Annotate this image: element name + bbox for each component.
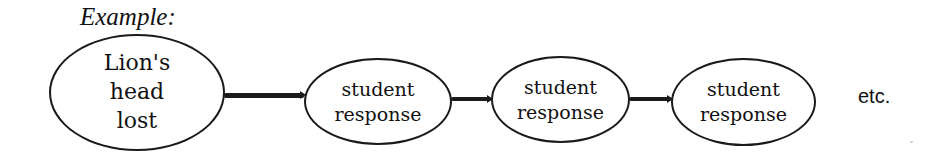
connector-arrow-3 — [629, 97, 671, 101]
start-node-line: head — [110, 77, 164, 106]
response-node-line: student — [342, 77, 415, 102]
start-node-line: Lion's — [104, 48, 170, 77]
student-response-node-2: student response — [491, 56, 630, 143]
response-node-line: student — [707, 77, 780, 102]
connector-arrow-1 — [224, 93, 304, 98]
response-node-line: response — [335, 102, 422, 127]
student-response-node-3: student response — [671, 58, 816, 146]
scan-speck — [910, 141, 913, 143]
example-caption: Example: — [80, 2, 176, 32]
student-response-node-1: student response — [304, 58, 452, 145]
continuation-label: etc. — [858, 84, 890, 108]
start-node-lions-head-lost: Lion's head lost — [49, 34, 225, 151]
response-node-line: response — [700, 102, 787, 127]
start-node-line: lost — [117, 106, 157, 135]
connector-arrow-2 — [451, 97, 491, 101]
response-node-line: student — [524, 75, 597, 100]
flow-diagram: Example: Lion's head lost student respon… — [0, 0, 946, 153]
response-node-line: response — [517, 100, 604, 125]
